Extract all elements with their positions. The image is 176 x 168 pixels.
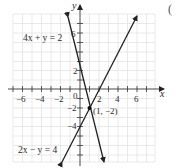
equation-label-1: 4x + y = 2	[23, 33, 62, 43]
x-tick-label: −4	[35, 94, 45, 104]
equation-label-2: 2x − y = 4	[18, 145, 57, 155]
y-tick-label: 2	[73, 66, 78, 76]
x-tick-label: 0	[73, 91, 78, 101]
y-tick-label: −4	[67, 121, 77, 131]
intersection-point	[88, 106, 92, 110]
x-tick-label: −2	[54, 94, 64, 104]
corner-mark: (	[168, 2, 172, 17]
x-tick-label: 6	[134, 94, 139, 104]
coordinate-graph: −6 −4 −2 0 2 4 6 6 2 −2 −4 x y (1, −2) 4…	[0, 0, 176, 168]
y-axis-label: y	[71, 0, 77, 11]
x-tick-label: −6	[16, 94, 26, 104]
x-tick-label: 4	[115, 94, 120, 104]
axes	[8, 5, 164, 166]
intersection-label: (1, −2)	[93, 106, 118, 116]
y-tick-label: 6	[71, 29, 76, 39]
x-axis-label: x	[159, 88, 165, 99]
y-tick-label: −2	[67, 103, 77, 113]
x-tick-labels: −6 −4 −2 0 2 4 6	[16, 91, 139, 104]
x-tick-label: 2	[97, 94, 102, 104]
